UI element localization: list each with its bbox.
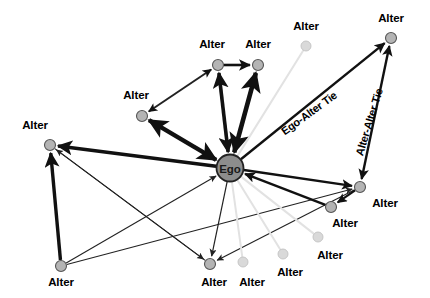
alter-node-label: Alter bbox=[372, 197, 398, 209]
alter-node-label: Alter bbox=[245, 38, 271, 50]
alter-node[interactable] bbox=[253, 60, 264, 71]
alter-node-label: Alter bbox=[293, 20, 319, 32]
edge-alter-alter-a3-a1 bbox=[149, 70, 212, 112]
edge-alter-alter-a5-a7 bbox=[67, 189, 352, 264]
alter-node[interactable] bbox=[205, 259, 216, 270]
alter-node-label: Alter bbox=[317, 249, 343, 261]
edge-ego-alter-ego-a7 bbox=[244, 170, 352, 186]
alter-node-label: Alter bbox=[48, 276, 74, 288]
edge-ego-alter-ego-a4 bbox=[58, 146, 216, 166]
alter-node-label: Alter bbox=[277, 266, 303, 278]
edge-alter-alter-a4-a6 bbox=[55, 149, 204, 260]
edge-alter-alter-a5-a4 bbox=[51, 153, 61, 260]
alter-node-label: Alter bbox=[123, 89, 149, 101]
alter-node[interactable] bbox=[326, 202, 337, 213]
alter-node[interactable] bbox=[301, 41, 311, 51]
alter-node-label: Alter bbox=[332, 217, 358, 229]
edge-ego-alter-a2-ego bbox=[234, 73, 256, 153]
alter-node[interactable] bbox=[238, 257, 248, 267]
alter-node[interactable] bbox=[137, 111, 148, 122]
ego-network-diagram: AlterAlterAlterAlterAlterAlterAlterAlter… bbox=[0, 0, 430, 298]
alter-node[interactable] bbox=[213, 60, 224, 71]
edge-ego-alter-ego-a6 bbox=[212, 182, 227, 256]
edge-ego-alter-a3-ego bbox=[149, 120, 216, 160]
alter-node[interactable] bbox=[313, 232, 323, 242]
alter-node-label: Alter bbox=[22, 119, 48, 131]
edge-ego-alter-ego-a1 bbox=[219, 73, 228, 152]
alter-node-label: Alter bbox=[378, 12, 404, 24]
edge-layer bbox=[51, 43, 390, 264]
ego-node-label: Ego bbox=[219, 163, 241, 175]
alter-node[interactable] bbox=[45, 140, 56, 151]
alter-node[interactable] bbox=[386, 33, 397, 44]
alter-node[interactable] bbox=[56, 261, 67, 272]
alter-node[interactable] bbox=[278, 249, 288, 259]
alter-node-label: Alter bbox=[239, 276, 265, 288]
alter-node-label: Alter bbox=[201, 276, 227, 288]
alter-node[interactable] bbox=[355, 182, 366, 193]
alter-node-label: Alter bbox=[199, 38, 225, 50]
edge-ego-alter-a5-ego bbox=[66, 176, 216, 263]
edge-ego-alter-ego-a11 bbox=[232, 182, 242, 257]
